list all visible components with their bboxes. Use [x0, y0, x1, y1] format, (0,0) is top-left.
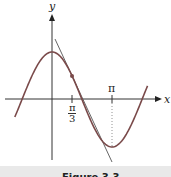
x-axis-arrow-icon — [155, 96, 162, 102]
tangent-point — [70, 74, 74, 78]
y-axis-label: y — [49, 1, 55, 12]
y-axis-arrow-icon — [49, 14, 55, 21]
tick-label-pi-third-numerator: π — [69, 103, 76, 113]
figure-canvas — [0, 0, 171, 177]
figure-caption: Figure 3.3 — [62, 172, 119, 177]
tangent-line — [55, 39, 112, 162]
tick-label-pi-third-denominator: 3 — [69, 114, 75, 124]
figure-caption-bar: Figure 3.3 — [0, 166, 171, 177]
x-axis-label: x — [164, 94, 170, 105]
tick-label-pi: π — [108, 83, 115, 94]
